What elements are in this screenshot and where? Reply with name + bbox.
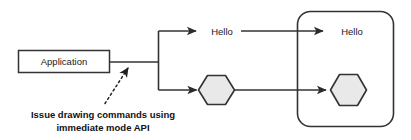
annotation-line-2: immediate mode API <box>56 122 149 133</box>
diagram-canvas: Application Hello Hello Issue drawing co… <box>0 0 411 140</box>
hello-right-label: Hello <box>341 26 363 37</box>
annotation-line-1: Issue drawing commands using <box>31 109 175 120</box>
hello-middle-label: Hello <box>211 26 233 37</box>
hexagon-middle <box>199 76 235 105</box>
annotation-leader-line <box>105 68 128 104</box>
application-box-label: Application <box>41 56 87 67</box>
diagram-svg: Application Hello Hello Issue drawing co… <box>0 0 411 140</box>
hexagon-right <box>331 75 367 106</box>
